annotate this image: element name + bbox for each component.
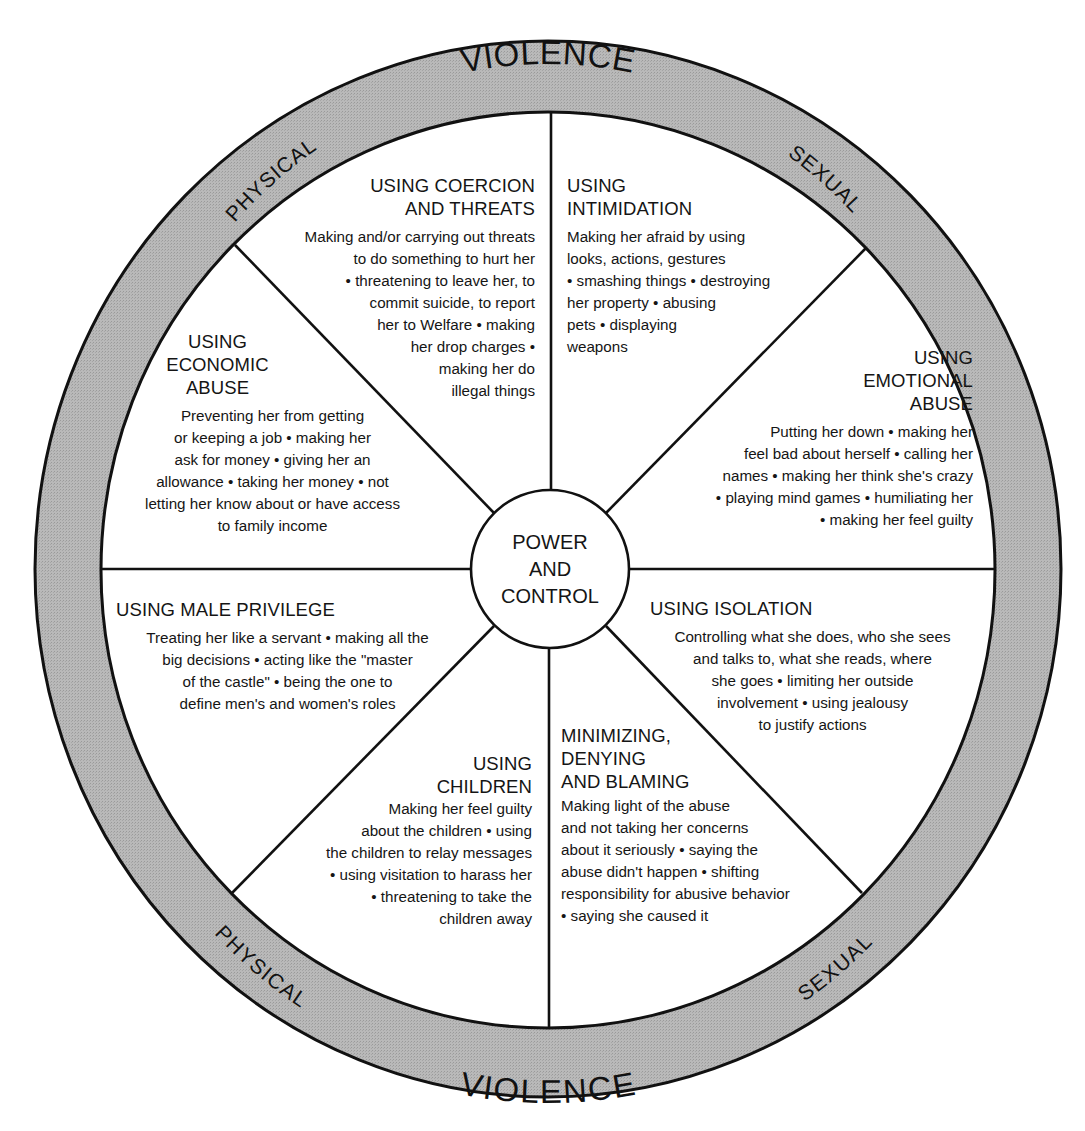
segment-body: Preventing her from getting or keeping a… xyxy=(110,405,435,537)
segment-body: Making light of the abuse and not taking… xyxy=(561,795,861,927)
segment-economic-abuse: USING ECONOMIC ABUSE Preventing her from… xyxy=(110,330,435,537)
segment-title: USING MALE PRIVILEGE xyxy=(110,598,465,621)
segment-title: MINIMIZING, DENYING AND BLAMING xyxy=(561,724,861,793)
segment-children: USING CHILDREN Making her feel guilty ab… xyxy=(280,752,532,930)
segment-body: Making her feel guilty about the childre… xyxy=(280,798,532,930)
segment-emotional-abuse: USING EMOTIONAL ABUSE Putting her down •… xyxy=(630,346,973,531)
segment-title: USING COERCION AND THREATS xyxy=(250,174,535,220)
hub-label: POWER AND CONTROL xyxy=(471,490,629,648)
segment-title: USING EMOTIONAL ABUSE xyxy=(630,346,973,415)
segment-title: USING ISOLATION xyxy=(640,597,985,620)
segment-title: USING INTIMIDATION xyxy=(567,174,827,220)
segment-title: USING ECONOMIC ABUSE xyxy=(110,330,435,399)
segment-body: Making her afraid by using looks, action… xyxy=(567,226,827,358)
segment-body: Treating her like a servant • making all… xyxy=(110,627,465,715)
segment-title: USING CHILDREN xyxy=(280,752,532,798)
segment-body: Putting her down • making her feel bad a… xyxy=(630,421,973,531)
segment-intimidation: USING INTIMIDATION Making her afraid by … xyxy=(567,174,827,358)
segment-male-privilege: USING MALE PRIVILEGE Treating her like a… xyxy=(110,598,465,715)
segment-minimizing: MINIMIZING, DENYING AND BLAMING Making l… xyxy=(561,724,861,927)
segment-isolation: USING ISOLATION Controlling what she doe… xyxy=(640,597,985,736)
segment-body: Controlling what she does, who she sees … xyxy=(640,626,985,736)
